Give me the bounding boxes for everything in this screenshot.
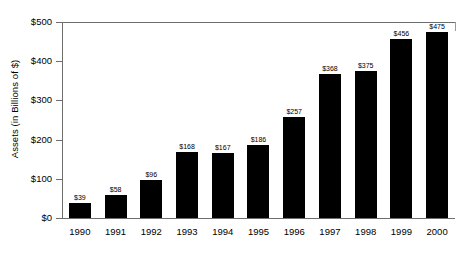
bar-slot: $375 (348, 22, 384, 218)
bar-value-label: $39 (62, 194, 98, 202)
bar[interactable] (176, 152, 198, 218)
bar[interactable] (355, 71, 377, 218)
bar[interactable] (283, 117, 305, 218)
y-axis-tick (56, 61, 62, 62)
bar-slot: $39 (62, 22, 98, 218)
bar-value-label: $257 (276, 108, 312, 116)
bar-value-label: $167 (205, 144, 241, 152)
x-axis-tick-label: 1991 (98, 226, 134, 238)
x-axis-tick-label: 1990 (62, 226, 98, 238)
y-axis-title: Assets (in Billions of $) (8, 0, 22, 218)
x-axis-tick-label: 1996 (276, 226, 312, 238)
x-axis-tick-label: 1993 (169, 226, 205, 238)
bar[interactable] (319, 74, 341, 218)
y-axis-tick-label: $300 (6, 95, 52, 105)
bar-slot: $168 (169, 22, 205, 218)
bar[interactable] (69, 203, 91, 218)
bar[interactable] (390, 39, 412, 218)
y-axis-tick (56, 100, 62, 101)
bar-value-label: $456 (384, 30, 420, 38)
x-axis-tick-label: 1995 (241, 226, 277, 238)
y-axis-tick-label: $500 (6, 17, 52, 27)
x-axis-tick-label: 1999 (384, 226, 420, 238)
bar[interactable] (426, 32, 448, 218)
bar-slot: $368 (312, 22, 348, 218)
y-axis-tick-label: $400 (6, 56, 52, 66)
bar[interactable] (247, 145, 269, 218)
y-axis-tick-label: $100 (6, 174, 52, 184)
bar-value-label: $58 (98, 186, 134, 194)
bar-slot: $257 (276, 22, 312, 218)
bar-value-label: $186 (241, 136, 277, 144)
y-axis-tick (56, 218, 62, 219)
x-axis-line (62, 218, 455, 219)
bar-slot: $456 (384, 22, 420, 218)
bar-slot: $475 (419, 22, 455, 218)
bar-value-label: $96 (133, 171, 169, 179)
y-axis-tick (56, 140, 62, 141)
plot-frame-right-edge (455, 22, 456, 31)
x-axis-tick-label: 1994 (205, 226, 241, 238)
bars-layer: $39$58$96$168$167$186$257$368$375$456$47… (62, 22, 455, 218)
bar[interactable] (105, 195, 127, 218)
x-axis: 1990199119921993199419951996199719981999… (62, 226, 455, 240)
bar[interactable] (140, 180, 162, 218)
bar-slot: $167 (205, 22, 241, 218)
x-axis-tick-label: 1998 (348, 226, 384, 238)
bar[interactable] (212, 153, 234, 218)
y-axis-tick (56, 22, 62, 23)
bar-slot: $186 (241, 22, 277, 218)
bar-chart: Assets (in Billions of $) $39$58$96$168$… (0, 0, 466, 256)
bar-value-label: $368 (312, 65, 348, 73)
x-axis-tick-label: 1997 (312, 226, 348, 238)
y-axis-tick (56, 179, 62, 180)
bar-value-label: $475 (419, 23, 455, 31)
x-axis-tick-label: 1992 (133, 226, 169, 238)
bar-slot: $96 (133, 22, 169, 218)
bar-value-label: $168 (169, 143, 205, 151)
bar-value-label: $375 (348, 62, 384, 70)
y-axis-tick-label: $0 (6, 213, 52, 223)
bar-slot: $58 (98, 22, 134, 218)
y-axis-tick-label: $200 (6, 135, 52, 145)
x-axis-tick-label: 2000 (419, 226, 455, 238)
